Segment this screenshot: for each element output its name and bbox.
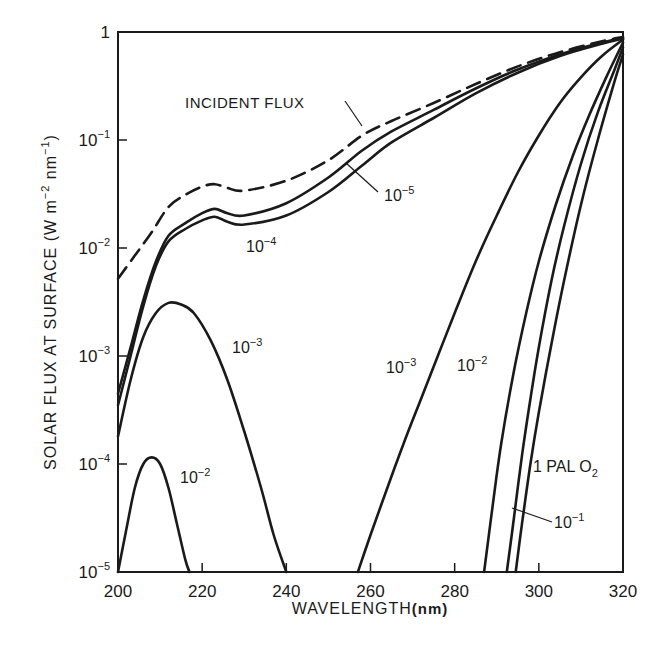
label-1e-3-right: 10−3 xyxy=(386,356,416,376)
leader-1e-5 xyxy=(346,163,378,192)
leader-1e-1 xyxy=(512,508,552,522)
y-tick-label: 10−5 xyxy=(79,560,110,582)
y-tick-label: 1 xyxy=(101,23,110,42)
label-1e-5: 10−5 xyxy=(384,184,414,204)
leader-incident-flux xyxy=(345,101,362,126)
x-tick-label: 200 xyxy=(104,582,132,601)
y-tick-label: 10−1 xyxy=(79,128,110,150)
label-incident-flux: INCIDENT FLUX xyxy=(185,94,305,111)
x-axis-title: WAVELENGTH(nm) xyxy=(292,600,449,617)
curves xyxy=(118,37,623,572)
y-tick-label: 10−4 xyxy=(79,452,110,474)
curve-10-5-pal-o2 xyxy=(118,38,623,394)
label-1e-2-left: 10−2 xyxy=(180,466,210,486)
curve-1-pal-o2 xyxy=(516,54,623,572)
label-1e-2-right: 10−2 xyxy=(457,354,487,374)
x-tick-label: 220 xyxy=(188,582,216,601)
x-tick-label: 260 xyxy=(356,582,384,601)
label-1e-1: 10−1 xyxy=(554,511,584,531)
x-tick-label: 280 xyxy=(440,582,468,601)
label-1-pal-o2: 1 PAL O2 xyxy=(533,458,598,479)
solar-flux-chart: 200220240260280300320110−110−210−310−410… xyxy=(0,0,666,645)
x-tick-label: 300 xyxy=(525,582,553,601)
y-tick-label: 10−3 xyxy=(79,344,110,366)
label-1e-4: 10−4 xyxy=(246,235,276,255)
y-tick-label: 10−2 xyxy=(79,236,110,258)
x-tick-label: 320 xyxy=(609,582,637,601)
label-1e-3-left: 10−3 xyxy=(232,336,262,356)
y-axis-title: SOLAR FLUX AT SURFACE (W m−2 nm−1) xyxy=(39,134,59,470)
curve-10-1-pal-o2 xyxy=(507,47,623,572)
x-tick-label: 240 xyxy=(272,582,300,601)
curve-10-2-pal-o2-short-wave xyxy=(118,457,190,572)
